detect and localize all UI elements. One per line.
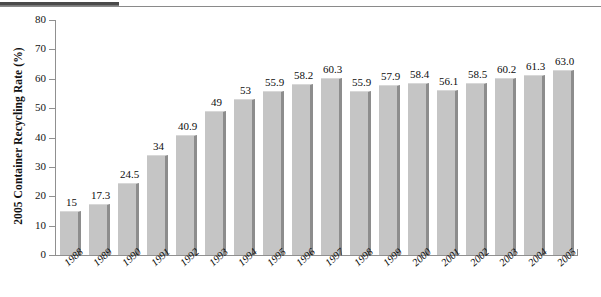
bar-value-label: 58.5 (468, 68, 487, 80)
y-axis-tick (49, 49, 55, 50)
y-axis-tick-label: 0 (0, 248, 46, 260)
y-axis-tick-label: 80 (0, 13, 46, 25)
bar (321, 78, 341, 255)
bar-value-label: 15 (66, 196, 77, 208)
bar (437, 90, 457, 255)
bar (350, 91, 370, 255)
bar-value-label: 55.9 (265, 76, 284, 88)
bar-value-label: 53 (240, 84, 251, 96)
bar-value-label: 49 (211, 96, 222, 108)
y-axis-tick (49, 20, 55, 21)
y-axis-tick-label: 60 (0, 72, 46, 84)
bar-chart: 2005 Container Recycling Rate (%) 010203… (0, 0, 601, 297)
bar-value-label: 60.2 (497, 63, 516, 75)
bar-value-label: 24.5 (120, 168, 139, 180)
header-rule-thick (0, 2, 119, 6)
y-axis-tick-label: 50 (0, 101, 46, 113)
y-axis-tick-label: 20 (0, 189, 46, 201)
y-axis-tick-label: 70 (0, 42, 46, 54)
bar (292, 84, 312, 255)
y-axis-tick (49, 255, 55, 256)
bar (524, 75, 544, 255)
bar-value-label: 34 (153, 140, 164, 152)
bar-value-label: 55.9 (352, 76, 371, 88)
y-axis-line (55, 20, 56, 256)
bar (176, 135, 196, 255)
bar (408, 83, 428, 255)
bar (234, 99, 254, 255)
y-axis-tick (49, 79, 55, 80)
bar (205, 111, 225, 255)
bar-value-label: 17.3 (91, 189, 110, 201)
y-axis-tick-label: 10 (0, 219, 46, 231)
bar-value-label: 56.1 (439, 75, 458, 87)
bar-value-label: 60.3 (323, 63, 342, 75)
y-axis-tick (49, 196, 55, 197)
bar (379, 85, 399, 255)
bar (118, 183, 138, 255)
y-axis-tick (49, 167, 55, 168)
bar-value-label: 63.0 (555, 55, 574, 67)
bar-value-label: 61.3 (526, 60, 545, 72)
bar-value-label: 58.2 (294, 69, 313, 81)
header-rule-thin (0, 6, 601, 7)
y-axis-tick (49, 108, 55, 109)
y-axis-tick-label: 30 (0, 160, 46, 172)
y-axis-tick (49, 138, 55, 139)
y-axis-tick (49, 226, 55, 227)
y-axis-tick-label: 40 (0, 131, 46, 143)
bar-value-label: 57.9 (381, 70, 400, 82)
bar (263, 91, 283, 255)
bar (553, 70, 573, 255)
bar (466, 83, 486, 255)
bar-value-label: 40.9 (178, 120, 197, 132)
bar (147, 155, 167, 255)
bar (495, 78, 515, 255)
bar-value-label: 58.4 (410, 68, 429, 80)
